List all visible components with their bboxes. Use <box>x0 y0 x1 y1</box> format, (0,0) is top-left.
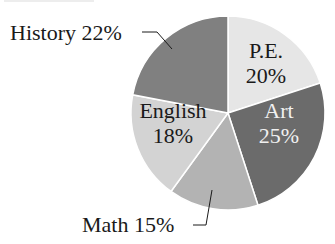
slice-value-art: 25% <box>259 123 299 148</box>
pie-chart: P.E.20%Art25%English18%History 22%Math 1… <box>0 0 335 244</box>
slice-value-pe: 20% <box>246 63 286 88</box>
outside-label-math: Math 15% <box>82 212 174 237</box>
outside-label-history: History 22% <box>10 20 122 45</box>
slice-value-english: 18% <box>153 123 193 148</box>
slice-label-pe: P.E. <box>249 38 283 63</box>
slice-label-art: Art <box>264 98 293 123</box>
slice-label-english: English <box>139 98 206 123</box>
